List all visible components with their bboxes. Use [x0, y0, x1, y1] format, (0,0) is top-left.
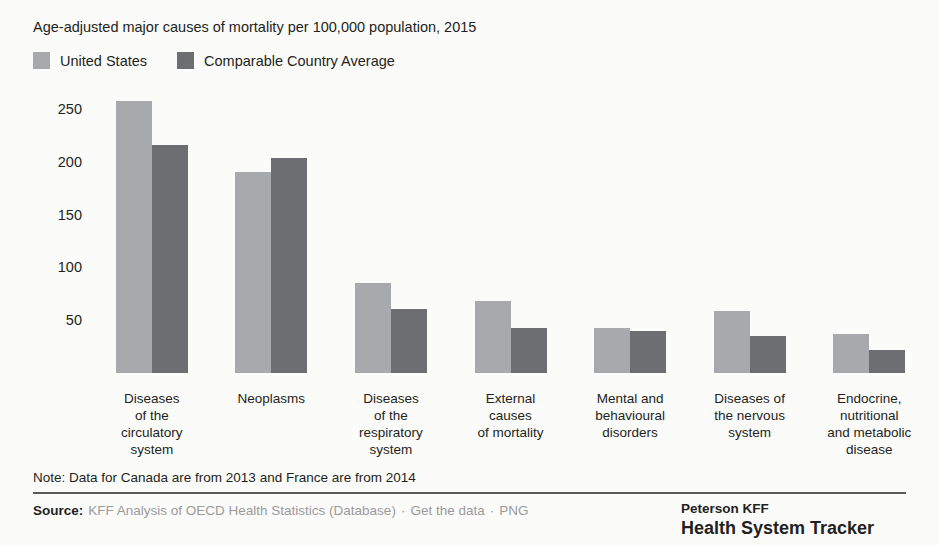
x-axis-category-label: Diseases ofthe nervoussystem	[690, 390, 810, 441]
bar-comparable-country-average[interactable]	[511, 328, 547, 373]
x-axis-category-label: Externalcausesof mortality	[451, 390, 571, 441]
x-axis-category-label-line: respiratory	[331, 424, 451, 441]
bars-area	[92, 88, 929, 388]
x-axis-category-label-line: Mental and	[570, 390, 690, 407]
legend-item-united-states[interactable]: United States	[33, 52, 147, 69]
x-axis-category-label-line: Diseases of	[690, 390, 810, 407]
x-axis-category-label-line: causes	[451, 407, 571, 424]
png-link[interactable]: PNG	[499, 503, 528, 518]
x-axis-category-label-line: Diseases	[331, 390, 451, 407]
x-axis-category-label: Neoplasms	[212, 390, 332, 407]
bar-group	[355, 88, 427, 388]
x-axis-category-label-line: Diseases	[92, 390, 212, 407]
source-label: Source:	[33, 503, 83, 518]
x-axis-category-label-line: system	[92, 441, 212, 458]
x-axis-category-label-line: Neoplasms	[212, 390, 332, 407]
x-axis-category-label: Endocrine,nutritionaland metabolicdiseas…	[809, 390, 929, 458]
bar-united-states[interactable]	[833, 334, 869, 373]
bar-group	[116, 88, 188, 388]
legend-item-comparable-country-average[interactable]: Comparable Country Average	[177, 52, 395, 69]
bar-comparable-country-average[interactable]	[750, 336, 786, 373]
x-axis-category-label-line: of mortality	[451, 424, 571, 441]
bar-comparable-country-average[interactable]	[271, 158, 307, 373]
legend-swatch-comparable-country-average	[177, 52, 194, 69]
x-axis-category-label-line: External	[451, 390, 571, 407]
legend-label-comparable-country-average: Comparable Country Average	[204, 53, 395, 69]
brand-top-line: Peterson KFF	[681, 500, 874, 517]
y-axis-tick-label: 150	[58, 207, 82, 223]
x-axis-category-labels: Diseasesof thecirculatorysystemNeoplasms…	[92, 390, 929, 468]
chart-legend: United States Comparable Country Average	[33, 52, 425, 69]
bar-group	[594, 88, 666, 388]
x-axis-category-label-line: disease	[809, 441, 929, 458]
y-axis-tick-label: 200	[58, 154, 82, 170]
footer-divider	[33, 492, 906, 494]
x-axis-category-label-line: of the	[92, 407, 212, 424]
y-axis-tick-label: 100	[58, 259, 82, 275]
x-axis-category-label-line: system	[331, 441, 451, 458]
bar-comparable-country-average[interactable]	[391, 309, 427, 373]
source-separator-2: ·	[490, 503, 495, 518]
y-axis-tick-label: 50	[66, 312, 82, 328]
bar-group	[235, 88, 307, 388]
get-the-data-link[interactable]: Get the data	[410, 503, 484, 518]
x-axis-category-label-line: of the	[331, 407, 451, 424]
brand-bottom-line: Health System Tracker	[681, 517, 874, 539]
bar-group	[714, 88, 786, 388]
plot-area: 50100150200250	[0, 88, 939, 388]
bar-united-states[interactable]	[475, 301, 511, 373]
x-axis-category-label-line: system	[690, 424, 810, 441]
source-separator-1: ·	[401, 503, 406, 518]
x-axis-category-label-line: and metabolic	[809, 424, 929, 441]
bar-united-states[interactable]	[116, 101, 152, 373]
x-axis-category-label: Diseasesof therespiratorysystem	[331, 390, 451, 458]
y-axis: 50100150200250	[26, 88, 82, 388]
x-axis-category-label-line: circulatory	[92, 424, 212, 441]
chart-page: Age-adjusted major causes of mortality p…	[0, 0, 939, 545]
y-axis-tick-label: 250	[58, 101, 82, 117]
bar-comparable-country-average[interactable]	[152, 145, 188, 373]
x-axis-category-label-line: Endocrine,	[809, 390, 929, 407]
chart-note: Note: Data for Canada are from 2013 and …	[33, 470, 416, 485]
chart-title: Age-adjusted major causes of mortality p…	[33, 18, 476, 36]
x-axis-category-label: Mental andbehaviouraldisorders	[570, 390, 690, 441]
bar-comparable-country-average[interactable]	[869, 350, 905, 373]
bar-comparable-country-average[interactable]	[630, 331, 666, 373]
bar-united-states[interactable]	[594, 328, 630, 373]
x-axis-category-label-line: the nervous	[690, 407, 810, 424]
bar-united-states[interactable]	[355, 283, 391, 373]
x-axis-category-label-line: behavioural	[570, 407, 690, 424]
bar-united-states[interactable]	[714, 311, 750, 373]
source-row: Source: KFF Analysis of OECD Health Stat…	[33, 503, 528, 518]
x-axis-category-label-line: disorders	[570, 424, 690, 441]
x-axis-category-label: Diseasesof thecirculatorysystem	[92, 390, 212, 458]
source-citation: KFF Analysis of OECD Health Statistics (…	[88, 503, 396, 518]
bar-group	[475, 88, 547, 388]
legend-label-united-states: United States	[60, 53, 147, 69]
bar-united-states[interactable]	[235, 172, 271, 373]
bar-group	[833, 88, 905, 388]
legend-swatch-united-states	[33, 52, 50, 69]
brand-logo: Peterson KFF Health System Tracker	[681, 500, 874, 539]
x-axis-category-label-line: nutritional	[809, 407, 929, 424]
